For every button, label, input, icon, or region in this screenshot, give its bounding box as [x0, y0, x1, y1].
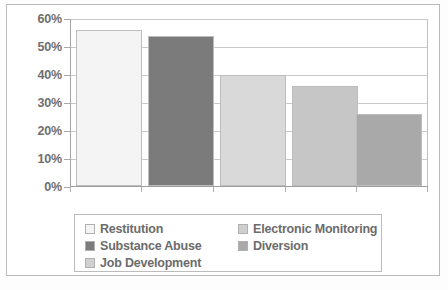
legend-column-right: Electronic Monitoring Diversion — [238, 220, 377, 254]
bar-electronic-monitoring[interactable] — [220, 75, 286, 186]
legend-swatch-icon — [85, 224, 95, 234]
legend-swatch-icon — [238, 241, 248, 251]
legend-item-label: Restitution — [100, 222, 163, 236]
bar-job-development[interactable] — [356, 114, 422, 186]
legend-item-label: Substance Abuse — [100, 239, 201, 253]
bar-restitution[interactable] — [76, 30, 142, 186]
bars-layer — [70, 19, 428, 186]
legend-item-label: Job Development — [100, 256, 201, 270]
y-tick-label: 60% — [18, 13, 62, 26]
legend-item-restitution[interactable]: Restitution — [85, 220, 201, 237]
legend-swatch-icon — [85, 258, 95, 268]
legend-item-electronic-monitoring[interactable]: Electronic Monitoring — [238, 220, 377, 237]
x-tick-mark — [213, 187, 214, 192]
y-tick-label: 10% — [18, 153, 62, 166]
x-tick-mark — [427, 187, 428, 192]
legend-swatch-icon — [238, 224, 248, 234]
y-tick-label: 0% — [18, 181, 62, 194]
y-tick-label: 50% — [18, 41, 62, 54]
y-tick-label: 30% — [18, 97, 62, 110]
y-axis-tick-labels: 60% 50% 40% 30% 20% 10% 0% — [14, 0, 62, 290]
legend-item-job-development[interactable]: Job Development — [85, 254, 201, 271]
legend-swatch-icon — [85, 241, 95, 251]
x-tick-mark — [70, 187, 71, 192]
legend-item-diversion[interactable]: Diversion — [238, 237, 377, 254]
legend-item-label: Electronic Monitoring — [253, 222, 377, 236]
y-tick-label: 40% — [18, 69, 62, 82]
legend: Restitution Substance Abuse Job Developm… — [74, 214, 382, 272]
x-tick-mark — [356, 187, 357, 192]
bar-substance-abuse[interactable] — [148, 36, 214, 186]
legend-item-label: Diversion — [253, 239, 308, 253]
x-axis-line — [70, 186, 428, 187]
bar-diversion[interactable] — [292, 86, 358, 186]
x-tick-mark — [141, 187, 142, 192]
bar-chart: 60% 50% 40% 30% 20% 10% 0% — [0, 0, 448, 290]
legend-column-left: Restitution Substance Abuse Job Developm… — [85, 220, 201, 271]
legend-item-substance-abuse[interactable]: Substance Abuse — [85, 237, 201, 254]
y-tick-label: 20% — [18, 125, 62, 138]
x-tick-mark — [285, 187, 286, 192]
